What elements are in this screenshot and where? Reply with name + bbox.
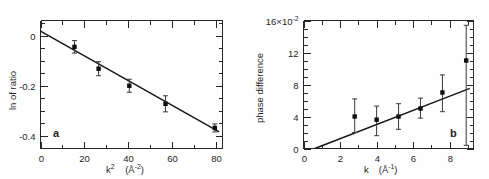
- panel-a-fit-line: [41, 31, 220, 132]
- panel-b-ticks: [304, 21, 474, 150]
- x-tick-label: 0: [302, 153, 307, 164]
- data-point: [374, 118, 378, 122]
- data-point: [72, 45, 76, 49]
- data-point: [464, 58, 468, 62]
- x-tick-label: 2: [338, 153, 343, 164]
- panel-b-xlabel: k(Å-1): [364, 163, 397, 175]
- y-tick-label: 16×10-2: [266, 15, 299, 27]
- data-point: [352, 114, 356, 118]
- panel-b-plot: 024680481216×10-2 phase difference k(Å-1…: [245, 0, 489, 179]
- svg-text:k2 (Å-2): k2 (Å-2): [106, 163, 144, 175]
- panel-a-xlabel: k2 (Å-2): [106, 163, 144, 175]
- x-tick-label: 40: [123, 153, 134, 164]
- panel-a-tag: a: [53, 127, 60, 139]
- x-tick-label: 80: [211, 153, 222, 164]
- data-point: [396, 114, 400, 118]
- panel-a-ylabel: ln of ratio: [7, 71, 18, 110]
- panel-b: 024680481216×10-2 phase difference k(Å-1…: [245, 0, 489, 179]
- y-tick-label: -0.4: [19, 131, 35, 142]
- panel-a-tick-labels: 0204060800-0.2-0.4: [19, 31, 222, 164]
- panel-b-tick-labels: 024680481216×10-2: [266, 15, 453, 164]
- figure-container: 0204060800-0.2-0.4 ln of ratio k2 (Å-2) …: [0, 0, 489, 179]
- data-point: [213, 126, 217, 130]
- data-point: [418, 106, 422, 110]
- x-tick-label: 8: [448, 153, 453, 164]
- panel-b-tag: b: [450, 127, 457, 139]
- x-tick-label: 6: [411, 153, 416, 164]
- panel-b-fit-line: [315, 88, 470, 148]
- y-tick-label: 0: [30, 31, 35, 42]
- panel-b-ylabel: phase difference: [254, 53, 265, 123]
- fit-line: [41, 31, 220, 132]
- y-tick-label: 0: [293, 144, 298, 155]
- data-point: [96, 66, 100, 70]
- x-tick-label: 4: [375, 153, 380, 164]
- y-tick-label: 8: [293, 80, 298, 91]
- y-tick-label: 12: [288, 48, 299, 59]
- y-tick-label: 4: [293, 112, 298, 123]
- panel-a: 0204060800-0.2-0.4 ln of ratio k2 (Å-2) …: [0, 0, 245, 179]
- panel-b-axes: [304, 21, 474, 149]
- x-tick-label: 0: [39, 153, 44, 164]
- data-point: [163, 102, 167, 106]
- svg-text:k(Å-1): k(Å-1): [364, 163, 397, 175]
- panel-a-plot: 0204060800-0.2-0.4 ln of ratio k2 (Å-2) …: [0, 0, 245, 179]
- panel-a-xlabel-paren-close: ): [141, 164, 144, 175]
- data-point: [440, 90, 444, 94]
- x-tick-label: 60: [167, 153, 178, 164]
- fit-line: [315, 88, 470, 148]
- panel-b-xlabel-paren-close: ): [394, 164, 397, 175]
- panel-b-xlabel-base: k: [364, 164, 369, 175]
- y-tick-label: -0.2: [19, 81, 35, 92]
- data-point: [127, 84, 131, 88]
- x-tick-label: 20: [79, 153, 90, 164]
